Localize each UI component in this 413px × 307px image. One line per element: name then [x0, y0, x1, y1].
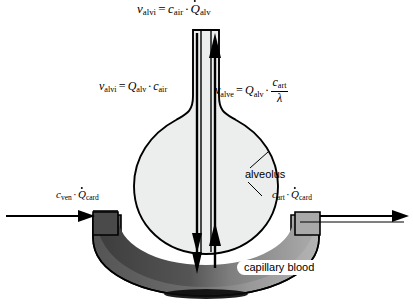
- equation-venous: cven·Qcard: [56, 189, 99, 202]
- alveolus-label: alveolus: [245, 169, 285, 180]
- alveolus-diagram-graphic: [0, 0, 413, 307]
- venous-vessel-stub: [93, 211, 118, 235]
- equation-top: valvi=cair·Qalv: [137, 2, 211, 17]
- equation-expired: valve=Qalv·cartλ: [215, 78, 288, 105]
- equation-inspired: valvi=Qalv·cair: [99, 80, 167, 94]
- figure-canvas: valvi=cair·Qalv valvi=Qalv·cair valve=Qa…: [0, 0, 413, 307]
- arterial-vessel-stub: [295, 212, 320, 235]
- alveolus-shape: [134, 30, 278, 254]
- blood-inflow-arrow: [6, 210, 95, 222]
- caption-fragment: [164, 289, 248, 299]
- capillary-blood-label: capillary blood: [237, 260, 321, 275]
- blood-outflow-arrow: [320, 210, 409, 222]
- equation-arterial: cart·Qcard: [272, 189, 312, 202]
